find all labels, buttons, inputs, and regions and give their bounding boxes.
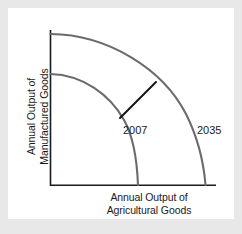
plot-area: 2007 2035 Annual Output of Agricultural … (8, 8, 234, 219)
x-axis-title: Annual Output of Agricultural Goods (66, 191, 232, 216)
growth-direction-line (120, 82, 156, 118)
figure-container: 2007 2035 Annual Output of Agricultural … (0, 0, 242, 234)
y-axis-title: Annual Output of Manufactured Goods (25, 37, 50, 197)
curve-label-2035: 2035 (197, 124, 221, 136)
curve-label-2007: 2007 (123, 124, 147, 136)
